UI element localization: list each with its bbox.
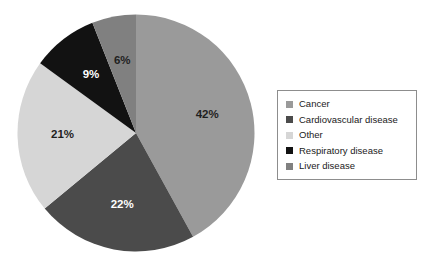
chart-legend: Cancer Cardiovascular disease Other Resp… (277, 90, 417, 180)
pie-slice-value-label: 42% (196, 108, 219, 120)
pie-chart-plot-area: 42%22%21%9%6% (17, 14, 255, 252)
legend-label-other: Other (299, 130, 323, 140)
legend-label-cancer: Cancer (299, 99, 330, 109)
legend-label-cardiovascular-disease: Cardiovascular disease (299, 115, 398, 125)
legend-swatch-icon-other (286, 132, 293, 139)
legend-item-liver-disease[interactable]: Liver disease (286, 159, 409, 173)
legend-swatch-icon-cancer (286, 101, 293, 108)
pie-chart-figure: 42%22%21%9%6% Cancer Cardiovascular dise… (0, 0, 426, 264)
pie-slice-value-label: 9% (83, 68, 100, 80)
pie-slice-value-label: 6% (114, 54, 131, 66)
pie-slice-value-label: 22% (111, 198, 134, 210)
legend-item-other[interactable]: Other (286, 128, 409, 142)
legend-item-respiratory-disease[interactable]: Respiratory disease (286, 144, 409, 158)
legend-item-cardiovascular-disease[interactable]: Cardiovascular disease (286, 113, 409, 127)
legend-item-cancer[interactable]: Cancer (286, 97, 409, 111)
pie-slice-value-label: 21% (51, 128, 74, 140)
legend-label-respiratory-disease: Respiratory disease (299, 146, 383, 156)
legend-label-liver-disease: Liver disease (299, 161, 355, 171)
legend-swatch-icon-liver-disease (286, 163, 293, 170)
pie-chart-svg: 42%22%21%9%6% (17, 14, 255, 252)
legend-swatch-icon-respiratory-disease (286, 147, 293, 154)
legend-swatch-icon-cardiovascular-disease (286, 116, 293, 123)
